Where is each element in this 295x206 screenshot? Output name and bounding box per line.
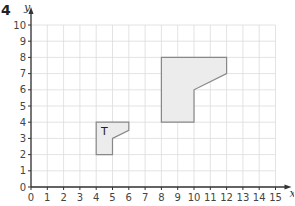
- x-tick-label: 13: [237, 192, 250, 203]
- y-tick-label: 6: [20, 84, 26, 95]
- x-tick-label: 7: [142, 192, 148, 203]
- y-tick-label: 4: [20, 117, 26, 128]
- y-tick-label: 2: [20, 149, 26, 160]
- x-tick-label: 4: [93, 192, 99, 203]
- x-tick-label: 14: [253, 192, 266, 203]
- y-tick-label: 0: [20, 182, 26, 193]
- y-tick-label: 5: [20, 101, 26, 112]
- y-tick-label: 10: [13, 20, 26, 31]
- x-tick-label: 11: [204, 192, 217, 203]
- y-tick-label: 3: [20, 133, 26, 144]
- x-tick-label: 5: [109, 192, 115, 203]
- x-tick-label: 0: [28, 192, 34, 203]
- tick-labels: 0123456789101112131415012345678910: [13, 20, 282, 204]
- x-tick-label: 10: [188, 192, 201, 203]
- y-tick-label: 1: [20, 165, 26, 176]
- x-tick-label: 1: [44, 192, 50, 203]
- x-tick-label: 15: [269, 192, 282, 203]
- x-tick-label: 9: [175, 192, 181, 203]
- x-tick-label: 12: [220, 192, 233, 203]
- coordinate-grid: T xy 0123456789101112131415012345678910: [0, 0, 294, 206]
- x-tick-label: 2: [60, 192, 66, 203]
- y-axis-label: y: [23, 1, 31, 14]
- y-tick-label: 8: [20, 52, 26, 63]
- y-tick-label: 9: [20, 36, 26, 47]
- x-axis-label: x: [290, 187, 295, 200]
- x-tick-label: 8: [158, 192, 164, 203]
- y-tick-label: 7: [20, 68, 26, 79]
- grid-lines: [31, 25, 276, 187]
- x-tick-label: 3: [77, 192, 83, 203]
- x-tick-label: 6: [126, 192, 132, 203]
- shape-label: T: [100, 125, 108, 138]
